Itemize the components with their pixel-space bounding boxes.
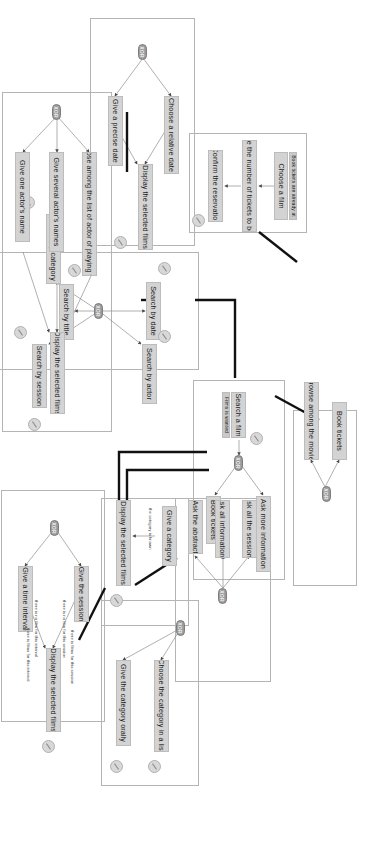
node-search-a-film[interactable]: Search a film: [231, 392, 246, 438]
edge-label-films-session: there is films for this session: [70, 630, 75, 684]
diagram-canvas: Browse among the movies Book tickets XOR…: [0, 0, 367, 866]
rotated-diagram-wrapper: Browse among the movies Book tickets XOR…: [0, 0, 367, 866]
annotation-blob-actordisp: [28, 418, 41, 431]
edge-label-no-film-interval: there is no film for this interval: [34, 600, 39, 657]
annotation-blob-book: [192, 214, 205, 227]
node-give-several-actor-names[interactable]: Give several actor's names: [49, 152, 64, 252]
operator-xor-info[interactable]: XOR: [218, 588, 227, 604]
node-give-one-actor-name[interactable]: Give one actor's name: [15, 152, 30, 242]
annotation-blob-searchfilm: [250, 432, 263, 445]
node-choose-film-hint: Book tickets are already at: [289, 152, 297, 220]
node-ask-more-information[interactable]: Ask more information: [256, 496, 271, 572]
edge-label-category-known: the category is known: [148, 508, 153, 550]
node-ask-the-abstract[interactable]: Ask the abstract: [188, 500, 203, 554]
node-search-by-session[interactable]: Search by session: [32, 344, 47, 408]
node-give-a-category[interactable]: Give a category: [162, 506, 177, 566]
node-give-time-interval[interactable]: Give a time interval: [18, 566, 33, 632]
edge-label-films-interval: there is films for this interval: [26, 628, 31, 682]
operator-xor-catlist[interactable]: XOR: [176, 620, 185, 636]
node-choose-relative-date[interactable]: Choose a relative date: [164, 96, 179, 174]
operator-xor-session[interactable]: XOR: [50, 520, 59, 536]
node-book-tickets-1[interactable]: Book tickets: [332, 402, 347, 460]
node-display-selected-films-category[interactable]: Display the selected films: [116, 500, 131, 586]
annotation-blob-catlist2: [110, 760, 123, 773]
node-display-selected-films-actor[interactable]: Display the selected films: [50, 332, 65, 414]
operator-xor-search-film[interactable]: XOR: [234, 455, 243, 471]
node-display-selected-films-date[interactable]: Display the selected films: [138, 164, 153, 250]
annotation-blob-sess: [14, 326, 27, 339]
node-search-by-actor[interactable]: Search by actor: [142, 344, 157, 404]
annotation-blob-actor: [158, 330, 171, 343]
node-choose-a-film[interactable]: Choose a film: [274, 152, 288, 220]
annotation-blob-catlist1: [148, 760, 161, 773]
operator-xor-browse[interactable]: XOR: [322, 486, 331, 502]
node-ask-all-informations[interactable]: Ask all informations: [215, 500, 230, 558]
node-give-number-of-tickets[interactable]: Give the number of tickets to book: [242, 140, 257, 232]
annotation-blob-date: [158, 262, 171, 275]
edge-label-no-film-session: there is no film for this session: [62, 600, 67, 658]
node-give-precise-date[interactable]: Give a precise date: [108, 96, 123, 166]
node-display-selected-films-session[interactable]: Display the selected films: [46, 648, 61, 732]
annotation-blob-datedisp: [114, 236, 127, 249]
node-browse-among-movies[interactable]: Browse among the movies: [304, 382, 319, 460]
operator-xor-date[interactable]: XOR: [138, 44, 147, 60]
node-choose-among-actor-list[interactable]: Choose among the list of actor of playin…: [82, 152, 97, 276]
annotation-blob-catdisp: [110, 594, 123, 607]
node-search-film-hint: Films is wanted: [222, 392, 230, 438]
annotation-blob-sessdisp: [42, 740, 55, 753]
operator-xor-actor[interactable]: XOR: [52, 104, 61, 120]
node-ask-all-sessions[interactable]: Ask all the sessions: [242, 500, 257, 558]
annotation-blob-title: [68, 264, 81, 277]
node-confirm-reservation[interactable]: Confirm the reservation: [208, 150, 223, 222]
node-give-the-session[interactable]: Give the session: [74, 566, 89, 622]
operator-xor-search-options[interactable]: XOR: [94, 303, 103, 319]
node-choose-category-in-list[interactable]: Choose the category in a list: [154, 660, 169, 752]
node-give-category-orally[interactable]: Give the category orally: [116, 660, 131, 746]
